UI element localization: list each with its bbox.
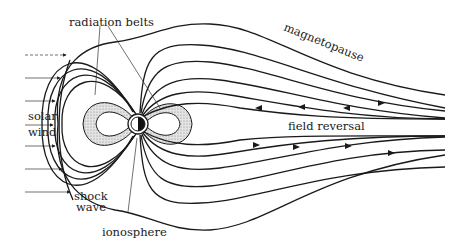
label-magnetopause: magnetopause bbox=[282, 20, 366, 65]
label-wind: wind bbox=[28, 125, 57, 139]
earth-icon bbox=[128, 114, 148, 134]
label-wave: wave bbox=[76, 200, 106, 214]
label-solar: solar bbox=[28, 109, 57, 123]
field-lines-tail-south bbox=[140, 132, 445, 203]
label-radiation-belts: radiation belts bbox=[69, 15, 154, 29]
label-ionosphere: ionosphere bbox=[102, 225, 167, 239]
field-lines-tail-north bbox=[140, 45, 445, 119]
shock-wave-curve bbox=[59, 60, 73, 200]
label-field-reversal: field reversal bbox=[288, 119, 365, 133]
magnetosphere-diagram: radiation belts magnetopause solar wind … bbox=[0, 0, 467, 250]
